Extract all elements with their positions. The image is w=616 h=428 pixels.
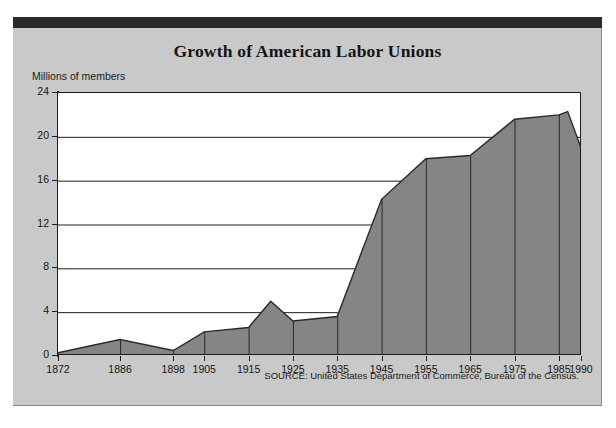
x-tick-label: 1872: [42, 363, 74, 375]
chart-title: Growth of American Labor Unions: [13, 41, 602, 62]
x-tick-mark: [173, 356, 174, 361]
x-tick-mark: [293, 356, 294, 361]
y-tick-label: 4: [27, 304, 49, 316]
x-tick-mark: [120, 356, 121, 361]
y-tick-label: 12: [27, 217, 49, 229]
y-tick-label: 8: [27, 260, 49, 272]
panel-header-bar: [13, 17, 602, 28]
x-tick-mark: [204, 356, 205, 361]
x-tick-label: 1886: [104, 363, 136, 375]
x-tick-mark: [426, 356, 427, 361]
x-tick-mark: [559, 356, 560, 361]
x-tick-label: 1915: [233, 363, 265, 375]
y-tick-label: 0: [27, 348, 49, 360]
source-note: SOURCE: United States Department of Comm…: [264, 370, 579, 381]
x-tick-mark: [470, 356, 471, 361]
x-tick-mark: [249, 356, 250, 361]
area-chart-svg: [58, 93, 581, 355]
y-tick-label: 24: [27, 85, 49, 97]
x-tick-mark: [581, 356, 582, 361]
x-tick-label: 1905: [188, 363, 220, 375]
x-tick-mark: [515, 356, 516, 361]
y-tick-label: 16: [27, 173, 49, 185]
x-tick-label: 1898: [157, 363, 189, 375]
figure-container: Growth of American Labor Unions Millions…: [0, 0, 616, 428]
x-tick-mark: [337, 356, 338, 361]
plot-area: [58, 92, 581, 355]
x-tick-mark: [382, 356, 383, 361]
chart-panel: Growth of American Labor Unions Millions…: [13, 17, 602, 406]
y-axis-label: Millions of members: [32, 70, 125, 82]
y-tick-label: 20: [27, 129, 49, 141]
x-tick-mark: [58, 356, 59, 361]
